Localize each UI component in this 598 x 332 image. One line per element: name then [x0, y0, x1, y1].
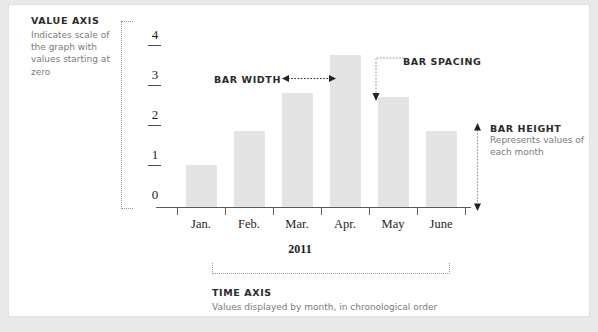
- bar-height-annotation-title: BAR HEIGHT: [490, 123, 590, 134]
- x-axis-tick-0: [177, 208, 178, 215]
- x-axis-label-feb: Feb.: [224, 217, 274, 232]
- bar-spacing-annotation-title: BAR SPACING: [403, 56, 481, 67]
- time-axis-annotation-title: TIME AXIS: [212, 287, 542, 298]
- x-axis-label-may: May: [368, 217, 418, 232]
- x-axis-tick-5: [417, 208, 418, 215]
- x-axis-label-jan: Jan.: [176, 217, 226, 232]
- x-axis-tick-4: [369, 208, 370, 215]
- bar-spacing-arrow-icon: [372, 55, 404, 101]
- x-axis-tick-1: [225, 208, 226, 215]
- x-axis-tick-6: [465, 208, 466, 215]
- illustration-card: VALUE AXIS Indicates scale of the graph …: [8, 4, 590, 317]
- time-axis-annotation: TIME AXIS Values displayed by month, in …: [212, 287, 542, 313]
- bar-mar: [282, 93, 313, 207]
- bar-june: [426, 131, 457, 207]
- x-axis-label-june: June: [416, 217, 466, 232]
- bar-height-arrow-icon: [471, 123, 484, 211]
- x-axis-baseline: [156, 207, 471, 208]
- x-axis-label-apr: Apr.: [320, 217, 370, 232]
- bar-feb: [234, 131, 265, 207]
- x-axis-tick-2: [273, 208, 274, 215]
- bar-height-annotation-body: Represents values of each month: [490, 134, 590, 158]
- bar-jan: [186, 165, 217, 207]
- bar-height-annotation: BAR HEIGHT Represents values of each mon…: [490, 123, 590, 158]
- bar-width-annotation-title: BAR WIDTH: [214, 74, 281, 85]
- x-axis-label-mar: Mar.: [272, 217, 322, 232]
- time-axis-annotation-body: Values displayed by month, in chronologi…: [212, 301, 542, 313]
- x-axis-year-label: 2011: [9, 242, 591, 257]
- x-axis-tick-3: [321, 208, 322, 215]
- bar-may: [378, 97, 409, 207]
- time-axis-bracket: [212, 263, 450, 274]
- bars-group: [9, 32, 591, 207]
- bar-width-arrow-icon: [282, 72, 336, 85]
